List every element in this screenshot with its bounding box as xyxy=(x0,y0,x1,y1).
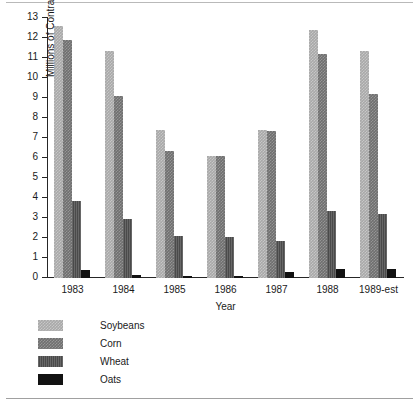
y-axis-tick: 8 xyxy=(42,117,48,118)
bar-wheat-1986 xyxy=(225,237,234,278)
bar-wheat-1985 xyxy=(174,236,183,278)
bar-oats-1989-est xyxy=(387,269,396,278)
page-rule-top xyxy=(6,2,413,3)
bar-wheat-1989-est xyxy=(378,214,387,278)
bar-soybeans-1989-est xyxy=(360,51,369,278)
bar-group xyxy=(360,17,396,278)
y-axis-tick-label: 10 xyxy=(8,70,38,83)
bar-corn-1983 xyxy=(63,40,72,278)
y-axis-tick-label: 2 xyxy=(8,230,38,243)
y-axis-tick-label: 9 xyxy=(8,90,38,103)
bar-oats-1984 xyxy=(132,275,141,278)
legend-label-soybeans: Soybeans xyxy=(100,318,144,333)
bar-wheat-1987 xyxy=(276,241,285,278)
bar-group xyxy=(54,17,90,278)
bar-soybeans-1984 xyxy=(105,51,114,278)
page-rule-bottom xyxy=(6,398,413,399)
bar-group xyxy=(156,17,192,278)
y-axis-tick: 9 xyxy=(42,97,48,98)
bar-group xyxy=(258,17,294,278)
bar-oats-1987 xyxy=(285,272,294,278)
y-axis-tick-label: 1 xyxy=(8,250,38,263)
legend-swatch-soybeans xyxy=(38,320,63,331)
y-axis-tick: 1 xyxy=(42,257,48,258)
legend-label-corn: Corn xyxy=(100,336,122,351)
x-axis-title: Year xyxy=(47,300,404,313)
bar-corn-1988 xyxy=(318,54,327,278)
y-axis-tick-label: 0 xyxy=(8,270,38,283)
x-axis-tick-label: 1989-est xyxy=(349,283,409,296)
legend-item-oats[interactable]: Oats xyxy=(38,372,258,390)
y-axis-tick: 5 xyxy=(42,177,48,178)
bar-oats-1988 xyxy=(336,269,345,278)
y-axis-tick-label: 8 xyxy=(8,110,38,123)
y-axis-tick-label: 6 xyxy=(8,150,38,163)
y-axis-tick: 6 xyxy=(42,157,48,158)
bar-oats-1983 xyxy=(81,270,90,278)
chart-legend: SoybeansCornWheatOats xyxy=(38,318,258,390)
plot-area: 012345678910111213 198319841985198619871… xyxy=(47,17,404,278)
y-axis-tick: 2 xyxy=(42,237,48,238)
bar-soybeans-1988 xyxy=(309,30,318,278)
bar-corn-1986 xyxy=(216,156,225,278)
legend-item-soybeans[interactable]: Soybeans xyxy=(38,318,258,336)
y-axis-tick-label: 11 xyxy=(8,50,38,63)
bar-corn-1989-est xyxy=(369,94,378,278)
bar-wheat-1984 xyxy=(123,219,132,278)
bar-oats-1985 xyxy=(183,276,192,278)
y-axis-tick-label: 7 xyxy=(8,130,38,143)
bar-oats-1986 xyxy=(234,276,243,278)
y-axis-tick-label: 5 xyxy=(8,170,38,183)
bar-corn-1985 xyxy=(165,151,174,278)
y-axis-tick: 0 xyxy=(42,277,48,278)
legend-item-wheat[interactable]: Wheat xyxy=(38,354,258,372)
bar-chart-figure: 012345678910111213 198319841985198619871… xyxy=(0,0,419,410)
legend-swatch-wheat xyxy=(38,356,63,367)
bar-group xyxy=(309,17,345,278)
y-axis-tick: 4 xyxy=(42,197,48,198)
bar-wheat-1983 xyxy=(72,201,81,278)
bar-soybeans-1987 xyxy=(258,130,267,278)
y-axis-tick-label: 3 xyxy=(8,210,38,223)
bar-corn-1984 xyxy=(114,96,123,278)
y-axis-tick: 7 xyxy=(42,137,48,138)
bar-wheat-1988 xyxy=(327,211,336,278)
bar-soybeans-1986 xyxy=(207,156,216,278)
legend-item-corn[interactable]: Corn xyxy=(38,336,258,354)
legend-label-wheat: Wheat xyxy=(100,354,129,369)
legend-swatch-corn xyxy=(38,338,63,349)
bar-soybeans-1985 xyxy=(156,130,165,278)
y-axis-tick: 10 xyxy=(42,77,48,78)
legend-label-oats: Oats xyxy=(100,372,121,387)
bar-group xyxy=(207,17,243,278)
y-axis-tick: 3 xyxy=(42,217,48,218)
y-axis-tick-label: 12 xyxy=(8,30,38,43)
y-axis-tick-label: 4 xyxy=(8,190,38,203)
bar-group xyxy=(105,17,141,278)
bar-corn-1987 xyxy=(267,131,276,278)
legend-swatch-oats xyxy=(38,374,63,385)
y-axis-title: Millions of Contracts Traded xyxy=(45,0,56,77)
y-axis-tick-label: 13 xyxy=(8,10,38,23)
